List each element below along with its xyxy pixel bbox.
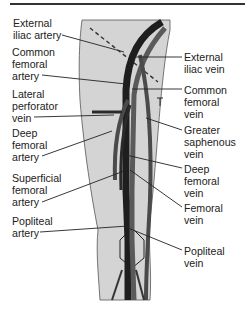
label-femoral-vein: Femoral vein [184,202,223,226]
label-external-iliac-vein: External iliac vein [184,51,225,75]
label-deep-femoral-artery: Deep femoral artery [12,127,47,163]
label-popliteal-vein: Popliteal vein [184,245,225,269]
label-external-iliac-artery: External iliac artery [13,17,61,41]
label-common-femoral-vein: Common femoral vein [184,84,227,120]
label-lateral-perforator-vein: Lateral perforator vein [12,88,58,124]
label-deep-femoral-vein: Deep femoral vein [184,163,219,199]
label-superficial-femoral-artery: Superficial femoral artery [12,172,61,208]
label-popliteal-artery: Popliteal artery [12,215,53,239]
label-common-femoral-artery: Common femoral artery [12,46,55,82]
label-greater-saphenous-vein: Greater saphenous vein [184,124,236,160]
